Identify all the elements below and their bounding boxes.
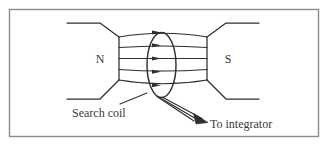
south-pole-label: S bbox=[225, 52, 232, 66]
north-pole-label: N bbox=[96, 52, 105, 66]
to-integrator-label: To integrator bbox=[210, 117, 272, 131]
search-coil-label: Search coil bbox=[72, 106, 126, 120]
figure-container: N S Search coil To integrator bbox=[0, 0, 328, 146]
figure-border bbox=[10, 10, 319, 137]
diagram-svg: N S Search coil To integrator bbox=[0, 0, 328, 146]
